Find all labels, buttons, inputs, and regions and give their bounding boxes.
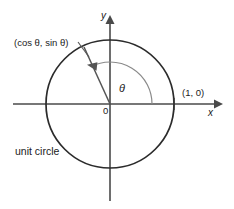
label-unit-circle-caption: unit circle [15,146,59,157]
label-y-axis: y [101,11,106,21]
label-theta-angle: θ [119,83,125,94]
x-axis [13,100,223,109]
label-x-axis: x [208,108,213,118]
y-axis-arrowhead [106,15,115,24]
x-axis-arrowhead [214,100,223,109]
label-origin: 0 [103,106,108,116]
unit-circle-graphic [0,0,234,209]
label-point-one-zero: (1, 0) [182,88,204,98]
label-cos-sin-point: (cos θ, sin θ) [14,38,68,48]
unit-circle-figure: (cos θ, sin θ) y x 0 (1, 0) θ unit circl… [0,0,234,209]
